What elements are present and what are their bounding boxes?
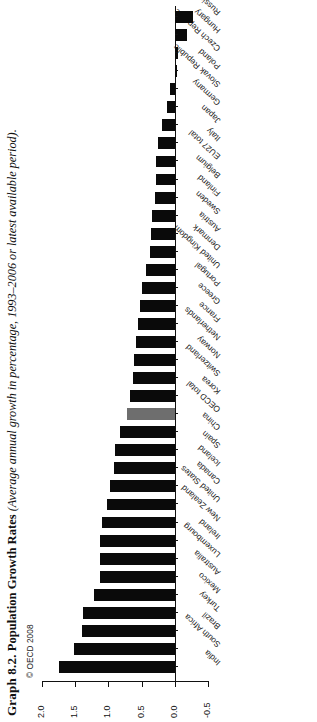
category-tick (175, 377, 178, 378)
bar-ireland[interactable] (100, 535, 174, 547)
bar-luxembourg[interactable] (100, 553, 175, 565)
figure-subtitle: (Average annual growth in percentage, 19… (5, 129, 19, 511)
bar-finland[interactable] (155, 192, 175, 204)
bar-australia[interactable] (100, 571, 175, 583)
category-label: Turkey (197, 589, 222, 613)
category-tick (175, 594, 178, 595)
bar-portugal[interactable] (142, 282, 175, 294)
bar-netherlands[interactable] (136, 336, 175, 348)
axis-tick (75, 681, 76, 687)
value-axis-zero-line (175, 6, 176, 682)
bar-germany[interactable] (167, 101, 175, 113)
category-tick (175, 612, 178, 613)
category-label: Japan (199, 103, 223, 126)
bar-denmark[interactable] (150, 246, 175, 258)
category-tick (175, 251, 178, 252)
axis-tick (175, 681, 176, 687)
bar-turkey[interactable] (83, 607, 175, 619)
bar-oecd-total[interactable] (127, 408, 175, 420)
category-tick (175, 359, 178, 360)
bar-spain[interactable] (115, 444, 175, 456)
category-tick (175, 431, 178, 432)
category-tick (175, 233, 178, 234)
category-label: India (202, 648, 222, 668)
bar-canada[interactable] (110, 480, 175, 492)
category-tick (175, 395, 178, 396)
category-tick (175, 341, 178, 342)
category-tick (175, 215, 178, 216)
bar-czech-republic[interactable] (175, 47, 178, 59)
category-tick (175, 540, 178, 541)
category-label: China (199, 411, 222, 433)
category-tick (175, 142, 178, 143)
category-tick (175, 197, 178, 198)
category-tick (175, 305, 178, 306)
bar-mexico[interactable] (94, 589, 175, 601)
bar-korea[interactable] (130, 390, 175, 402)
figure-caption: Graph 8.2. Population Growth Rates (Aver… (4, 4, 26, 716)
bar-south-africa[interactable] (74, 643, 175, 655)
bar-eu27-total[interactable] (156, 156, 175, 168)
category-tick (175, 269, 178, 270)
bar-belgium[interactable] (156, 174, 175, 186)
bar-austria[interactable] (151, 228, 175, 240)
category-tick (175, 576, 178, 577)
category-tick (175, 88, 178, 89)
category-tick (175, 449, 178, 450)
bar-chart-plot: 2.01.51.00.50.0-0.5IndiaSouth AfricaBraz… (38, 0, 256, 722)
category-tick (175, 70, 178, 71)
figure-title: Population Growth Rates (5, 514, 19, 651)
category-tick (175, 666, 178, 667)
bar-united-kingdom[interactable] (146, 264, 175, 276)
copyright-notice: © OECD 2008 (26, 624, 35, 678)
bar-slovak-republic[interactable] (170, 83, 175, 95)
bar-sweden[interactable] (152, 210, 175, 222)
category-tick (175, 558, 178, 559)
axis-tick (42, 681, 43, 687)
bar-france[interactable] (138, 318, 175, 330)
bar-italy[interactable] (158, 137, 175, 149)
bar-greece[interactable] (140, 300, 175, 312)
bar-iceland[interactable] (114, 462, 175, 474)
axis-tick (108, 681, 109, 687)
category-tick (175, 413, 178, 414)
category-tick (175, 323, 178, 324)
category-tick (175, 179, 178, 180)
category-tick (175, 160, 178, 161)
category-tick (175, 106, 178, 107)
category-tick (175, 16, 178, 17)
category-tick (175, 522, 178, 523)
category-tick (175, 52, 178, 53)
value-axis-spine (42, 681, 208, 682)
axis-tick (142, 681, 143, 687)
category-tick (175, 504, 178, 505)
bar-switzerland[interactable] (133, 372, 175, 384)
bar-poland[interactable] (175, 65, 177, 77)
category-tick (175, 630, 178, 631)
graph-page: Graph 8.2. Population Growth Rates (Aver… (0, 0, 317, 722)
category-tick (175, 467, 178, 468)
bar-new-zealand[interactable] (102, 517, 175, 529)
bar-china[interactable] (120, 426, 174, 438)
bar-japan[interactable] (162, 119, 175, 131)
category-tick (175, 124, 178, 125)
category-tick (175, 648, 178, 649)
figure-number: Graph 8.2. (4, 654, 19, 716)
category-tick (175, 287, 178, 288)
bar-norway[interactable] (134, 354, 175, 366)
bar-hungary[interactable] (175, 29, 187, 41)
bar-russian-fed[interactable] (175, 11, 194, 23)
bar-united-states[interactable] (107, 499, 175, 511)
bar-india[interactable] (59, 661, 175, 673)
category-tick (175, 485, 178, 486)
category-tick (175, 34, 178, 35)
bar-brazil[interactable] (82, 625, 175, 637)
axis-tick (208, 681, 209, 687)
